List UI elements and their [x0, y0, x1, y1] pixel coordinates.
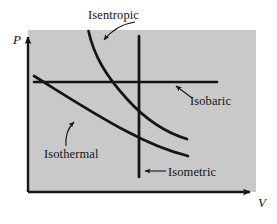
y-axis-label: P	[13, 33, 21, 46]
leader-isothermal	[66, 122, 74, 146]
label-isentropic: Isentropic	[88, 9, 139, 22]
label-isobaric: Isobaric	[190, 95, 231, 108]
pv-process-diagram: Isentropic Isobaric Isothermal Isometric…	[0, 0, 277, 224]
curve-isothermal	[34, 76, 188, 156]
label-isometric: Isometric	[168, 166, 216, 179]
x-axis-label: V	[258, 196, 266, 209]
leader-isentropic	[104, 22, 135, 40]
label-isothermal: Isothermal	[44, 148, 98, 161]
diagram-graphics	[0, 0, 277, 224]
